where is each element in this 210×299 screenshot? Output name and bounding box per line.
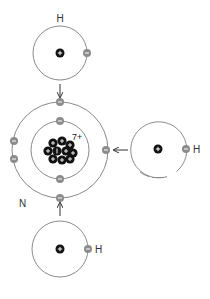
hydrogen-label-bottom: H: [95, 244, 102, 255]
electron-icon: [56, 194, 64, 202]
electron-icon: [10, 137, 18, 145]
proton-icon: [154, 145, 163, 154]
electron-icon: [56, 175, 64, 183]
hydrogen-atom-bottom: H: [32, 221, 102, 277]
nuclear-charge-label: 7+: [72, 132, 82, 142]
hydrogen-label-top: H: [56, 13, 63, 24]
hydrogen-label-right: H: [193, 144, 200, 155]
electron-icon: [182, 145, 190, 153]
electron-icon: [83, 49, 91, 57]
hydrogen-atom-right: H: [131, 122, 200, 178]
nitrogen-atom: 7+ N: [10, 98, 110, 209]
proton-icon: [56, 49, 65, 58]
nitrogen-label: N: [19, 198, 26, 209]
electron-icon: [10, 155, 18, 163]
electron-icon: [56, 117, 64, 125]
electron-icon: [84, 245, 92, 253]
electron-icon: [102, 146, 110, 154]
proton-icon: [56, 245, 65, 254]
electron-icon: [56, 98, 64, 106]
hydrogen-atom-top: H: [33, 13, 91, 80]
ammonia-bonding-diagram: H: [0, 0, 210, 299]
